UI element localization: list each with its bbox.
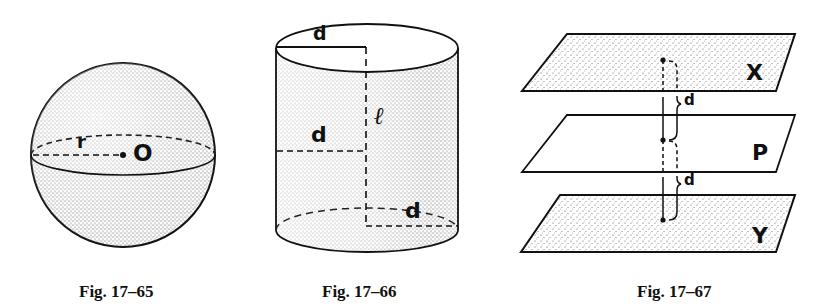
point-on-y (660, 217, 665, 222)
plane-x-label: X (746, 60, 763, 85)
plane-y-label: Y (752, 223, 768, 248)
axis-label: ℓ (374, 101, 384, 130)
radius-label: r (77, 131, 86, 152)
center-point (120, 152, 126, 158)
top-radius-label: d (313, 22, 327, 44)
cylinder-figure (276, 24, 458, 252)
bottom-radius-label: d (405, 198, 421, 223)
plane-p-label: P (752, 140, 768, 165)
upper-distance-label: d (684, 91, 695, 109)
center-label: O (133, 140, 153, 166)
figures-canvas (0, 0, 826, 306)
middle-distance-label: d (311, 122, 327, 147)
lower-distance-label: d (684, 171, 695, 189)
figure-caption: Fig. 17–65 (79, 282, 154, 302)
figure-caption: Fig. 17–66 (322, 282, 397, 302)
sphere-figure (31, 63, 215, 247)
point-on-x (660, 57, 665, 62)
point-on-p (660, 137, 665, 142)
cylinder-top-ellipse (276, 24, 458, 72)
figure-caption: Fig. 17–67 (637, 282, 712, 302)
